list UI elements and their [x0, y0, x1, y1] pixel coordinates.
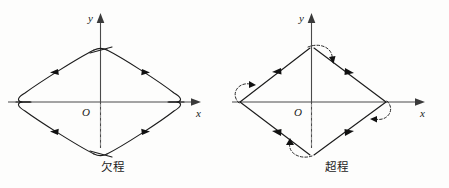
direction-arrow-lower-left: [272, 129, 282, 136]
traj-upper-left-edge: [18, 50, 94, 102]
y-axis-arrowhead: [97, 13, 105, 23]
traj-upper-right-edge: [314, 48, 386, 102]
x-axis-arrowhead: [415, 98, 425, 106]
origin-label: O: [82, 106, 90, 118]
direction-arrow-upper-left: [50, 69, 59, 75]
origin-label: O: [294, 106, 302, 118]
traj-lower-right-edge: [107, 102, 181, 154]
y-axis-arrowhead: [308, 13, 316, 23]
direction-arrow-upper-right: [141, 69, 150, 75]
direction-arrow-upper-right: [345, 68, 355, 75]
traj-upper-right-edge: [107, 50, 181, 102]
direction-arrow-lower-right: [345, 129, 355, 136]
x-axis-label: x: [419, 107, 425, 119]
y-axis-label: y: [298, 12, 304, 24]
caption-over-travel: 超程: [224, 158, 449, 174]
traj-upper-left-edge: [240, 48, 310, 102]
direction-arrow-lower-right: [141, 129, 150, 135]
direction-arrow-lower-left: [50, 129, 59, 135]
overshoot-arrow-right: [370, 116, 377, 123]
x-axis-label: x: [195, 107, 201, 119]
caption-under-travel: 欠程: [0, 158, 225, 174]
y-axis-label: y: [87, 12, 93, 24]
overshoot-arrow-left: [249, 81, 256, 88]
traj-lower-right-edge: [314, 102, 386, 155]
figure-root: y x O 欠程: [0, 0, 449, 188]
x-axis-arrowhead: [191, 98, 201, 106]
